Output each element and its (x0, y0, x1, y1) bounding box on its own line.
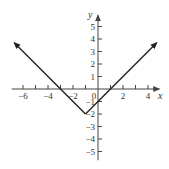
x-axis-label: x (157, 90, 163, 101)
y-tick-label: 3 (91, 47, 96, 57)
x-tick-label: −2 (68, 91, 78, 101)
y-tick-label: 2 (91, 59, 96, 69)
left-ray (14, 43, 85, 114)
y-tick-label: 5 (91, 22, 96, 32)
absolute-value-chart: −6−4−202454321−1−2−3−4−5xy (0, 0, 169, 169)
y-tick-label: −2 (85, 109, 95, 119)
x-tick-label: 2 (121, 91, 126, 101)
y-tick-label: −3 (85, 122, 95, 132)
x-tick-label: 4 (146, 91, 151, 101)
y-tick-label: 1 (91, 72, 96, 82)
right-ray (86, 43, 157, 114)
x-tick-label: −6 (18, 91, 28, 101)
y-tick-label: −4 (85, 134, 95, 144)
y-axis-label: y (87, 9, 93, 20)
y-tick-label: −5 (85, 147, 95, 157)
y-tick-label: 4 (91, 34, 96, 44)
tick-labels: −6−4−202454321−1−2−3−4−5xy (18, 9, 163, 157)
x-tick-label: −4 (43, 91, 53, 101)
